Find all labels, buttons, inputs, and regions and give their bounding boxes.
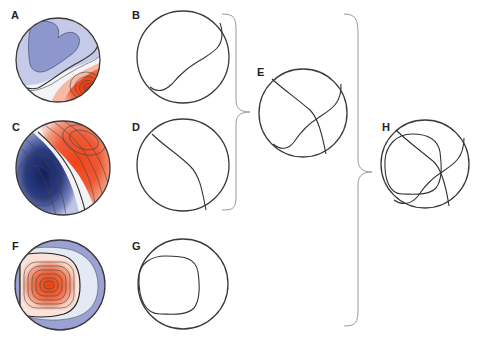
panel-a: A bbox=[10, 9, 110, 110]
panel-label-d: D bbox=[132, 121, 140, 133]
scalp-outline-h bbox=[381, 120, 469, 208]
scalp-outline-d bbox=[137, 119, 229, 211]
panel-d: D bbox=[132, 119, 229, 211]
scalp-outline-b bbox=[137, 11, 229, 103]
zero-contour-h-g bbox=[385, 134, 441, 194]
panel-label-h: H bbox=[382, 121, 390, 133]
scalp-outline-e bbox=[259, 69, 347, 157]
panel-label-b: B bbox=[132, 9, 140, 21]
zero-contour-b bbox=[150, 23, 222, 90]
panel-c: C bbox=[12, 119, 114, 218]
topomap-c bbox=[12, 119, 114, 218]
scalp-outline-g bbox=[138, 239, 228, 329]
panel-label-c: C bbox=[12, 121, 20, 133]
figure-canvas: A B C bbox=[0, 0, 483, 345]
topomap-f bbox=[14, 238, 108, 332]
panel-label-a: A bbox=[11, 9, 19, 21]
panel-e: E bbox=[257, 66, 347, 157]
panel-f: F bbox=[12, 238, 108, 332]
zero-contour-d bbox=[152, 134, 206, 210]
panel-label-f: F bbox=[12, 240, 19, 252]
zero-contour-e-2 bbox=[272, 79, 326, 154]
panel-label-e: E bbox=[257, 66, 264, 78]
zero-contour-e-1 bbox=[273, 84, 341, 148]
brace-eg-to-h bbox=[344, 14, 372, 326]
panel-label-g: G bbox=[132, 240, 141, 252]
panel-h: H bbox=[381, 120, 469, 208]
panel-b: B bbox=[132, 9, 229, 103]
panel-g: G bbox=[132, 239, 228, 329]
zero-contour-g bbox=[139, 256, 199, 314]
topomap-a bbox=[10, 14, 110, 110]
